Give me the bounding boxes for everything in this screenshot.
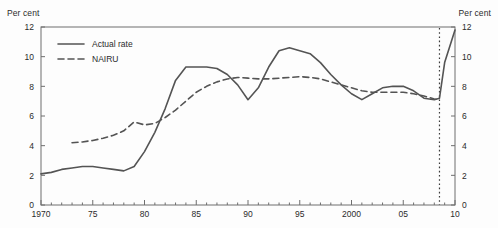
x-tick-label: 1970: [32, 209, 51, 219]
y-tick-label-left: 2: [29, 171, 34, 181]
legend-label-actual-rate: Actual rate: [92, 39, 133, 49]
y-tick-label-right: 4: [462, 141, 467, 151]
y-axis-right-ticks: 024681012: [451, 22, 472, 210]
x-tick-label: 95: [295, 209, 305, 219]
y-tick-label-right: 0: [462, 200, 467, 210]
y-tick-label-right: 10: [462, 52, 472, 62]
x-tick-label: 90: [243, 209, 253, 219]
series-path-nairu: [72, 77, 439, 143]
x-tick-label: 85: [192, 209, 202, 219]
y-tick-label-right: 6: [462, 111, 467, 121]
y-tick-label-left: 10: [25, 52, 35, 62]
y-axis-left-ticks: 024681012: [25, 22, 45, 210]
series-layer: [41, 30, 455, 174]
y-tick-label-right: 2: [462, 171, 467, 181]
series-path-actual-rate: [41, 30, 455, 174]
x-tick-label: 10: [450, 209, 460, 219]
x-tick-label: 75: [88, 209, 98, 219]
x-tick-label: 05: [399, 209, 409, 219]
y-tick-label-left: 4: [29, 141, 34, 151]
x-axis-ticks: 1970758085909520000510: [32, 200, 460, 219]
y-tick-label-left: 12: [25, 22, 35, 32]
y-tick-label-left: 6: [29, 111, 34, 121]
y-tick-label-right: 8: [462, 82, 467, 92]
y-tick-label-left: 8: [29, 82, 34, 92]
x-tick-label: 2000: [342, 209, 361, 219]
chart-legend: Actual rateNAIRU: [58, 39, 133, 64]
y-tick-label-right: 12: [462, 22, 472, 32]
x-tick-label: 80: [140, 209, 150, 219]
chart-container: Per cent Per cent 024681012 024681012 19…: [0, 0, 498, 228]
line-chart-plot: 024681012 024681012 19707580859095200005…: [0, 0, 498, 228]
legend-label-nairu: NAIRU: [92, 54, 118, 64]
